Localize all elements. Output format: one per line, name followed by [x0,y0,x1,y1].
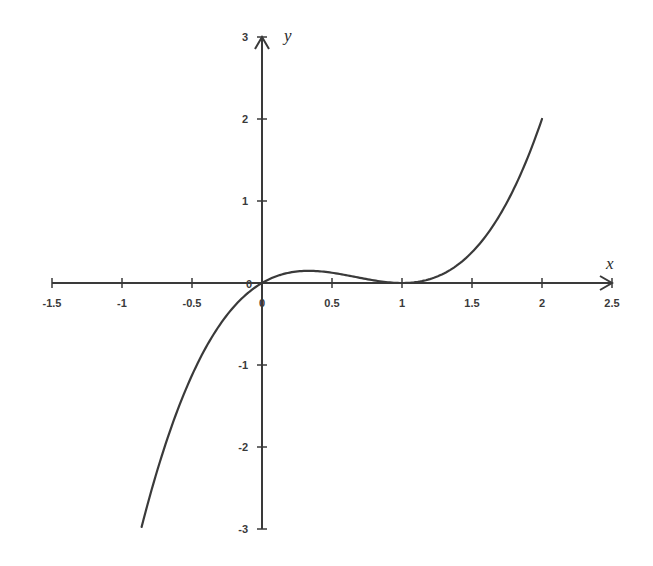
x-tick-label: 0 [259,297,265,309]
y-tick-label: 2 [242,113,248,125]
y-tick-label: -3 [238,523,248,535]
x-tick-label: 1 [399,297,405,309]
y-tick-label: 1 [242,195,248,207]
x-tick-label: 0.5 [324,297,339,309]
x-tick-label: -1.5 [43,297,62,309]
x-axis-label: x [605,254,614,273]
y-tick-label: -1 [238,359,248,371]
function-curve-path [142,119,542,527]
function-curve [142,119,542,527]
y-tick-label: -2 [238,441,248,453]
cubic-function-chart: -1.5-1-0.500.511.522.50321-1-2-3xy [0,0,653,566]
x-tick-label: -0.5 [183,297,202,309]
y-tick-label: 3 [242,31,248,43]
x-tick-label: 2 [539,297,545,309]
x-tick-label: -1 [117,297,127,309]
x-tick-label: 1.5 [464,297,479,309]
origin-label: 0 [246,278,252,290]
axis-labels: -1.5-1-0.500.511.522.50321-1-2-3xy [43,26,620,535]
x-tick-label: 2.5 [604,297,619,309]
axes [52,37,612,529]
y-axis-label: y [282,26,292,45]
